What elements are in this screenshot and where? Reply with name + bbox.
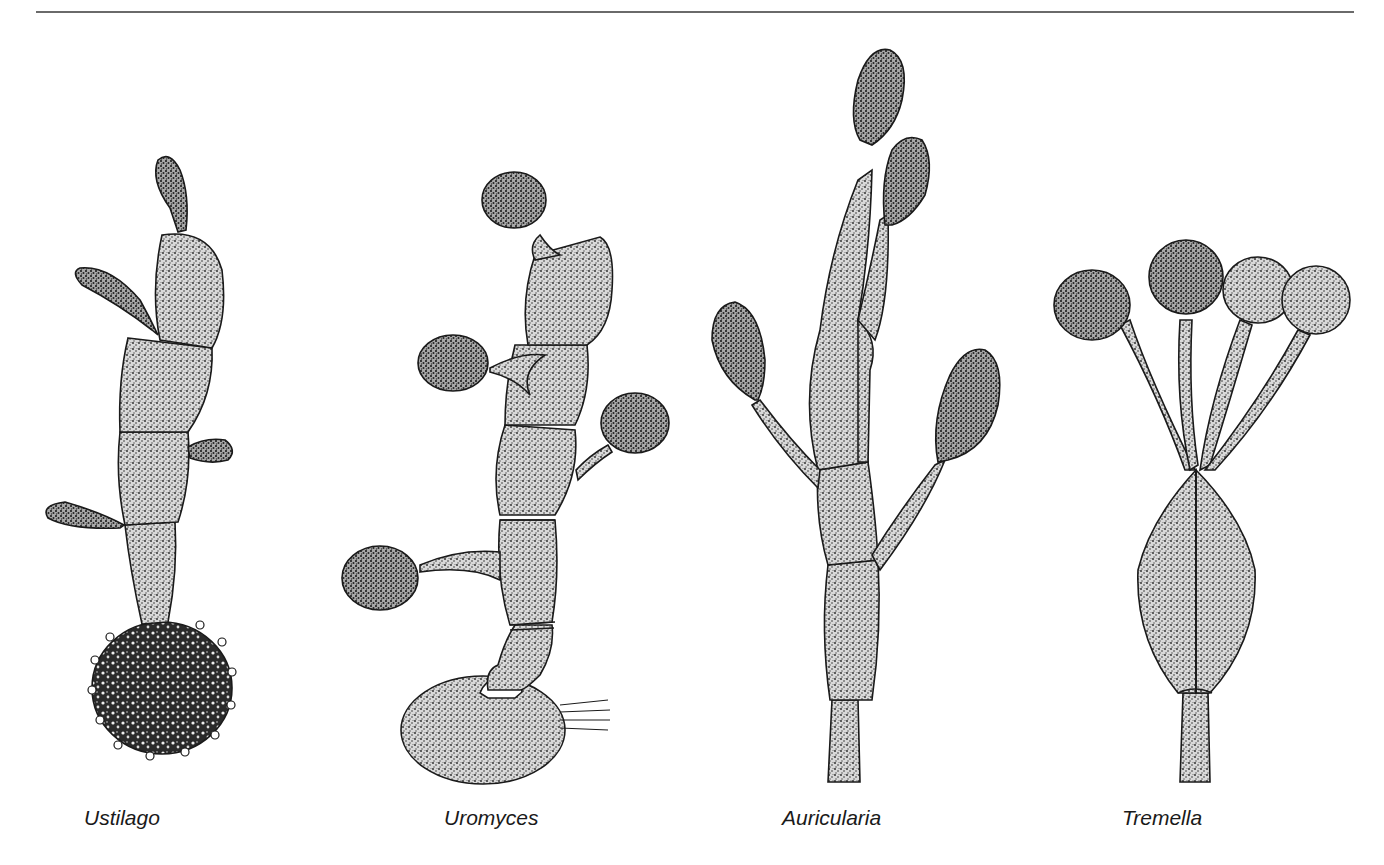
uromyces-drawing: [342, 172, 669, 784]
panel-label-auricularia: Auricularia: [782, 806, 881, 830]
auricularia-drawing: [712, 49, 1000, 782]
tremella-drawing: [1054, 240, 1350, 782]
panel-label-uromyces: Uromyces: [444, 806, 539, 830]
basidia-illustration: [0, 0, 1384, 865]
ustilago-drawing: [46, 157, 236, 760]
panel-label-tremella: Tremella: [1122, 806, 1202, 830]
panel-label-ustilago: Ustilago: [84, 806, 160, 830]
